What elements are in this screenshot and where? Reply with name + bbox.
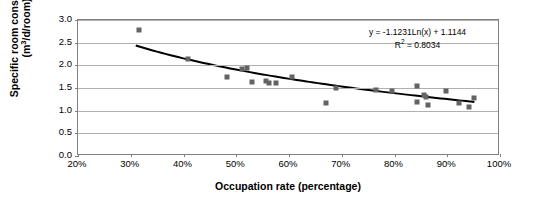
y-axis-tick-label: 1.0 [44,105,72,115]
data-point-marker [266,80,271,85]
data-point-marker [414,83,419,88]
data-point-marker [457,100,462,105]
y-axis-tick-label: 0.5 [44,127,72,137]
data-point-marker [390,88,395,93]
x-axis-tick-label: 90% [426,158,466,169]
y-axis-tickmark [75,111,78,112]
equation-text: y = -1.1231Ln(x) + 1.1144 [330,26,505,39]
data-point-marker [289,75,294,80]
trendline-equation-annotation: y = -1.1231Ln(x) + 1.1144 R2 = 0.8034 [330,26,505,52]
data-point-marker [274,81,279,86]
x-axis-tickmark [289,154,290,157]
x-axis-tick-labels: 20%30%40%50%60%70%80%90%100% [77,158,499,172]
data-point-marker [415,99,420,104]
x-axis-tick-label: 60% [268,158,308,169]
data-point-marker [136,27,141,32]
y-axis-tickmark [75,43,78,44]
data-point-marker [374,87,379,92]
x-axis-tickmark [342,154,343,157]
data-point-marker [472,96,477,101]
y-axis-tick-label: 3.0 [44,14,72,24]
r-squared-text: R2 = 0.8034 [330,39,505,52]
x-axis-tick-label: 70% [321,158,361,169]
y-axis-title-line2: (m3/d/room) [20,0,32,97]
y-axis-tick-label: 2.0 [44,59,72,69]
y-axis-title-line1: Specific room consumption [8,0,20,97]
y-axis-tickmark [75,20,78,21]
x-axis-tickmark [131,154,132,157]
data-point-marker [224,74,229,79]
y-axis-tickmark [75,133,78,134]
x-axis-tick-label: 30% [110,158,150,169]
x-axis-tickmark [500,154,501,157]
y-axis-unit-pre: (m [20,45,32,58]
data-point-marker [245,66,250,71]
chart-container: Specific room consumption (m3/d/room) 0.… [0,0,533,208]
data-point-marker [443,88,448,93]
gridline-horizontal [78,88,498,89]
x-axis-tickmark [447,154,448,157]
gridline-horizontal [78,20,498,21]
gridline-horizontal [78,133,498,134]
x-axis-tick-label: 40% [163,158,203,169]
data-point-marker [185,57,190,62]
r-squared-post: = 0.8034 [405,40,441,50]
x-axis-tick-label: 50% [215,158,255,169]
x-axis-tick-label: 100% [479,158,519,169]
data-point-marker [334,86,339,91]
x-axis-tick-label: 80% [374,158,414,169]
y-axis-tickmark [75,88,78,89]
x-axis-tickmark [395,154,396,157]
y-axis-unit-superscript: 3 [19,41,28,45]
y-axis-unit-post: /d/room) [20,0,32,41]
data-point-marker [250,80,255,85]
x-axis-title: Occupation rate (percentage) [77,180,499,193]
y-axis-tick-label: 1.5 [44,82,72,92]
x-axis-tick-label: 20% [57,158,97,169]
x-axis-tickmark [78,154,79,157]
gridline-horizontal [78,65,498,66]
x-axis-tickmark [184,154,185,157]
y-axis-tick-label: 2.5 [44,37,72,47]
y-axis-tick-labels: 0.00.51.01.52.02.53.0 [44,19,72,155]
y-axis-title: Specific room consumption (m3/d/room) [0,0,40,108]
x-axis-tickmark [236,154,237,157]
y-axis-tickmark [75,65,78,66]
data-point-marker [467,104,472,109]
data-point-marker [323,101,328,106]
data-point-marker [239,66,244,71]
gridline-horizontal [78,111,498,112]
data-point-marker [424,94,429,99]
data-point-marker [426,102,431,107]
